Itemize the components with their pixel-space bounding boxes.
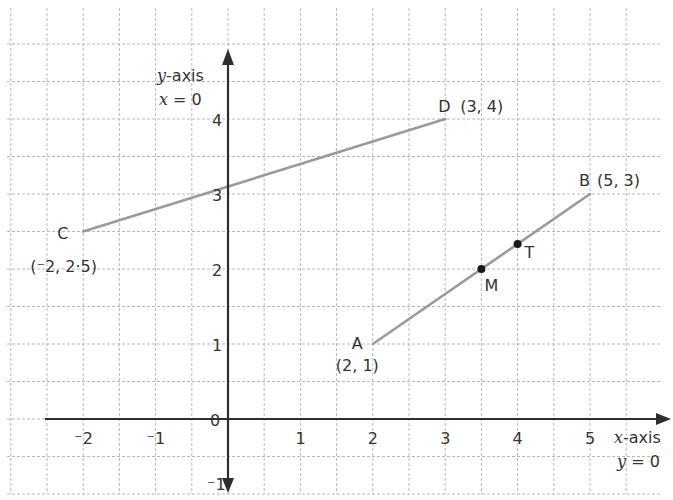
y-tick-label: 4 bbox=[212, 111, 222, 130]
point-coord-label-A: (2, 1) bbox=[336, 356, 379, 375]
point-label-T: T bbox=[524, 243, 535, 262]
tick-labels: ⁻2⁻1123451234⁻10 bbox=[74, 111, 595, 494]
x-tick-label: 1 bbox=[295, 429, 305, 448]
point-coord-label-D: (3, 4) bbox=[460, 97, 503, 116]
point-marker-T bbox=[514, 240, 522, 248]
point-label-C: C bbox=[57, 224, 68, 243]
coordinate-plane: ⁻2⁻1123451234⁻10 A(2, 1)B(5, 3)C(⁻2, 2·5… bbox=[0, 0, 673, 500]
point-label-B: B bbox=[579, 171, 590, 190]
point-label-M: M bbox=[484, 276, 498, 295]
grid-lines bbox=[7, 8, 660, 494]
axes bbox=[45, 49, 671, 493]
x-axis-arrow-icon bbox=[656, 413, 671, 425]
x-tick-label: ⁻1 bbox=[147, 429, 166, 448]
x-axis-equation: y = 0 bbox=[616, 452, 660, 471]
point-coord-label-B: (5, 3) bbox=[597, 171, 640, 190]
point-label-D: D bbox=[438, 97, 450, 116]
y-tick-label: ⁻1 bbox=[207, 475, 226, 494]
x-tick-label: 5 bbox=[585, 429, 595, 448]
y-axis-up-arrow-icon bbox=[222, 49, 234, 65]
point-marker-M bbox=[477, 265, 485, 273]
y-axis-title: y-axis bbox=[156, 66, 204, 85]
x-tick-label: ⁻2 bbox=[74, 429, 93, 448]
y-tick-label: 3 bbox=[212, 186, 222, 205]
x-tick-label: 2 bbox=[368, 429, 378, 448]
y-tick-label: 2 bbox=[212, 261, 222, 280]
x-tick-label: 3 bbox=[440, 429, 450, 448]
x-axis-title: x-axis bbox=[614, 428, 661, 447]
coordinate-diagram: ⁻2⁻1123451234⁻10 A(2, 1)B(5, 3)C(⁻2, 2·5… bbox=[0, 0, 673, 500]
point-coord-label-C: (⁻2, 2·5) bbox=[30, 257, 97, 276]
origin-label: 0 bbox=[210, 411, 220, 430]
points: A(2, 1)B(5, 3)C(⁻2, 2·5)D(3, 4)MT bbox=[30, 97, 640, 375]
y-axis-equation: x = 0 bbox=[159, 90, 202, 109]
y-tick-label: 1 bbox=[212, 336, 222, 355]
x-tick-label: 4 bbox=[513, 429, 523, 448]
point-label-A: A bbox=[352, 334, 363, 353]
